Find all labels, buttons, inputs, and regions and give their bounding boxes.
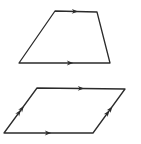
geometry-diagram	[0, 0, 141, 144]
trapezoid-outline	[19, 11, 110, 63]
trapezoid	[19, 9, 110, 65]
parallelogram	[4, 86, 125, 135]
